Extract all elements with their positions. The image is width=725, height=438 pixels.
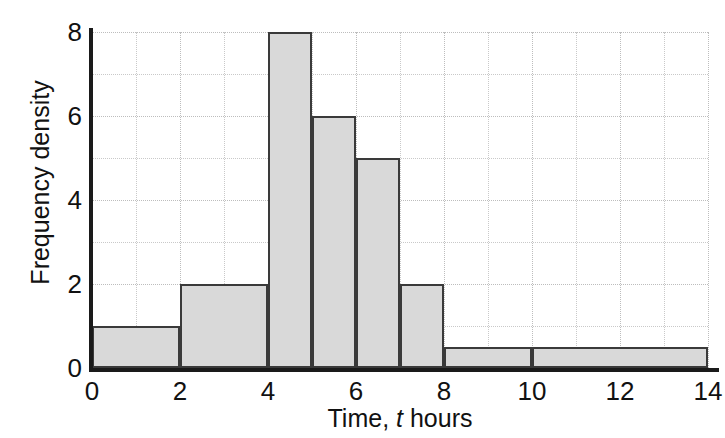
- y-axis-line: [89, 28, 93, 371]
- x-tick-label: 12: [590, 378, 650, 404]
- x-axis-line: [89, 368, 719, 372]
- x-tick-label: 14: [678, 378, 725, 404]
- x-tick-label: 2: [150, 378, 210, 404]
- y-axis-title: Frequency density: [26, 53, 55, 313]
- histogram-bar: [532, 347, 708, 368]
- histogram-figure: 02468 02468101214 Frequency density Time…: [0, 0, 725, 438]
- histogram-bars: [92, 32, 708, 368]
- x-tick-label: 8: [414, 378, 474, 404]
- x-axis-title-suffix: hours: [410, 404, 473, 432]
- plot-area: [92, 32, 708, 368]
- histogram-bar: [92, 326, 180, 368]
- x-axis-title: Time, t hours: [92, 404, 708, 433]
- histogram-bar: [400, 284, 444, 368]
- histogram-bar: [444, 347, 532, 368]
- histogram-bar: [312, 116, 356, 368]
- x-tick-label: 10: [502, 378, 562, 404]
- histogram-bar: [268, 32, 312, 368]
- x-axis-title-prefix: Time,: [328, 404, 390, 432]
- y-axis-title-wrapper: Frequency density: [0, 0, 60, 400]
- x-tick-label: 0: [62, 378, 122, 404]
- gridline-vertical: [708, 32, 709, 368]
- x-axis-title-variable: t: [396, 404, 403, 432]
- histogram-bar: [180, 284, 268, 368]
- histogram-bar: [356, 158, 400, 368]
- x-tick-label: 6: [326, 378, 386, 404]
- x-tick-label: 4: [238, 378, 298, 404]
